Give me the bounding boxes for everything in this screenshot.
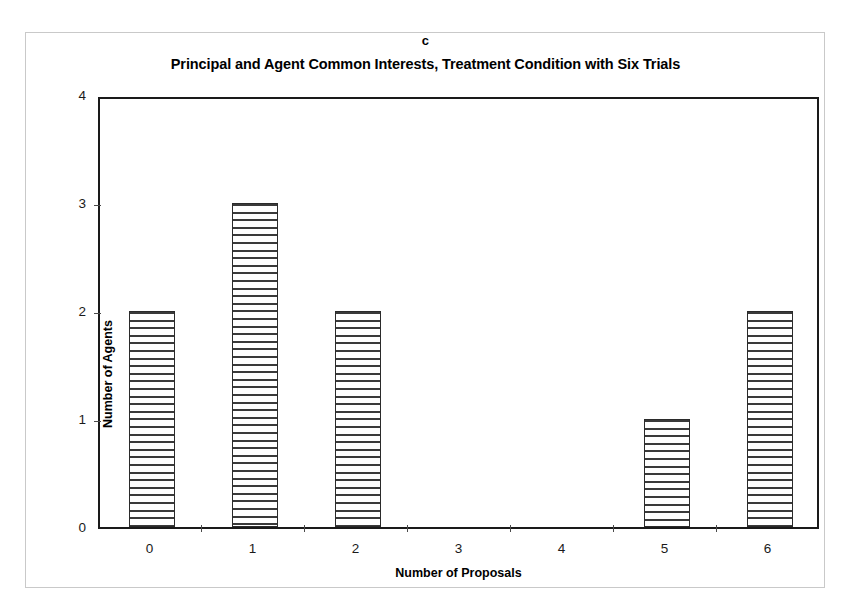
x-tick-mark-4 — [510, 525, 511, 532]
x-tick-label-4: 4 — [532, 541, 592, 556]
bar-6 — [747, 311, 793, 527]
y-tick-label-4: 4 — [50, 89, 86, 103]
y-tick-mark-2 — [94, 313, 101, 314]
x-tick-mark-2 — [304, 525, 305, 532]
bars-layer — [100, 99, 817, 527]
x-tick-label-0: 0 — [120, 541, 180, 556]
y-tick-label-1: 1 — [50, 413, 86, 427]
x-tick-label-3: 3 — [429, 541, 489, 556]
x-tick-mark-6 — [716, 525, 717, 532]
bar-0 — [129, 311, 175, 527]
x-tick-label-2: 2 — [326, 541, 386, 556]
y-tick-mark-1 — [94, 421, 101, 422]
panel-letter: c — [0, 33, 851, 48]
x-tick-mark-5 — [613, 525, 614, 532]
x-tick-mark-1 — [201, 525, 202, 532]
x-tick-label-6: 6 — [738, 541, 798, 556]
plot-area: Number of Agents — [98, 97, 819, 529]
y-tick-label-3: 3 — [50, 197, 86, 211]
x-tick-label-5: 5 — [635, 541, 695, 556]
x-tick-mark-3 — [407, 525, 408, 532]
bar-1 — [232, 203, 278, 527]
y-tick-label-2: 2 — [50, 305, 86, 319]
x-axis-title: Number of Proposals — [98, 566, 819, 580]
y-tick-mark-3 — [94, 205, 101, 206]
chart-title: Principal and Agent Common Interests, Tr… — [0, 55, 851, 73]
bar-2 — [335, 311, 381, 527]
x-tick-label-1: 1 — [223, 541, 283, 556]
bar-5 — [644, 419, 690, 527]
y-tick-label-0: 0 — [50, 521, 86, 535]
